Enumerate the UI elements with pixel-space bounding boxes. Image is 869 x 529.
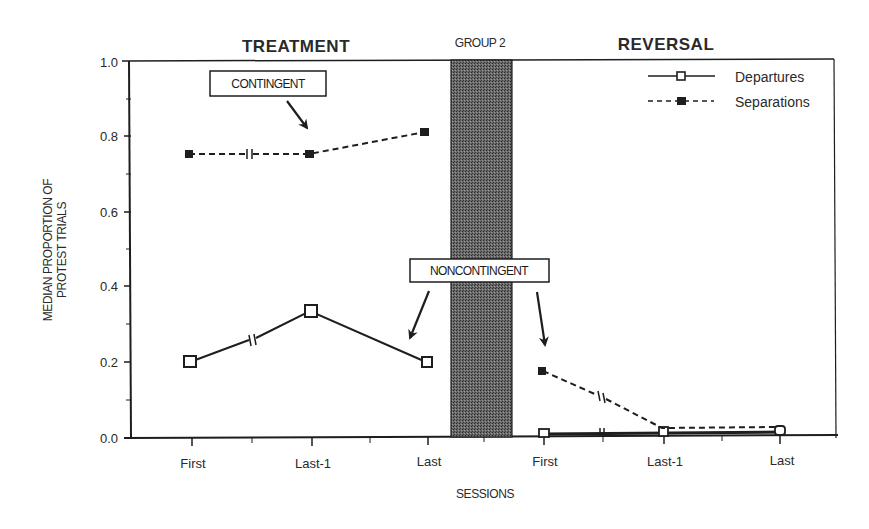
y-tick-label: 0.8	[100, 129, 118, 144]
svg-text:PROTEST TRIALS: PROTEST TRIALS	[55, 202, 69, 298]
data-point-departures	[775, 426, 785, 435]
x-tick-label: Last-1	[295, 456, 331, 471]
y-tick-label: 1.0	[100, 55, 118, 70]
y-tick-label: 0.4	[100, 279, 118, 294]
series-departures-treatment	[184, 305, 432, 367]
legend-item-departures: Departures	[648, 69, 804, 85]
x-tick-label: Last	[770, 453, 795, 468]
svg-text:CONTINGENT: CONTINGENT	[231, 77, 306, 91]
y-tick-label: 0.6	[100, 205, 118, 220]
data-point-departures	[422, 357, 432, 367]
y-tick-labels: 0.0 0.2 0.4 0.6 0.8 1.0	[100, 55, 118, 446]
series-separations-reversal	[538, 367, 778, 428]
arrow-icon	[287, 101, 307, 128]
svg-text:MEDIAN PROPORTION OF: MEDIAN PROPORTION OF	[41, 179, 55, 322]
open-square-marker-icon	[677, 72, 685, 80]
data-point-separations	[305, 150, 314, 158]
group-label: GROUP 2	[455, 36, 506, 50]
line-chart: TREATMENT GROUP 2 REVERSAL 0.0 0.2 0.4 0…	[0, 0, 869, 529]
group-2-shaded-bar	[451, 60, 512, 437]
svg-text:Departures: Departures	[735, 69, 804, 85]
x-tick-label: Last-1	[647, 454, 683, 469]
x-axis-label: SESSIONS	[456, 487, 515, 501]
data-point-separations	[420, 128, 429, 136]
svg-text:NONCONTINGENT: NONCONTINGENT	[430, 264, 529, 278]
phase-title-reversal: REVERSAL	[618, 35, 715, 54]
y-tick-label: 0.0	[100, 431, 118, 446]
x-tick-label: First	[532, 454, 558, 469]
svg-text:Separations: Separations	[735, 94, 810, 110]
annotation-contingent: CONTINGENT	[210, 71, 326, 128]
data-point-departures	[539, 429, 549, 437]
data-point-separations	[185, 150, 193, 158]
arrow-icon	[410, 291, 429, 338]
filled-square-marker-icon	[677, 97, 686, 105]
y-axis-label: MEDIAN PROPORTION OF PROTEST TRIALS	[41, 179, 69, 322]
arrow-icon	[537, 292, 545, 345]
x-tick-label: First	[180, 456, 206, 471]
series-separations-treatment	[185, 128, 429, 159]
legend: Departures Separations	[648, 69, 810, 110]
x-tick-label: Last	[417, 454, 442, 469]
legend-item-separations: Separations	[648, 94, 810, 110]
x-tick-labels: First Last-1 Last First Last-1 Last	[180, 453, 794, 471]
phase-title-treatment: TREATMENT	[242, 37, 350, 56]
y-tick-label: 0.2	[100, 355, 118, 370]
data-point-separations	[538, 367, 546, 375]
data-point-departures	[184, 356, 196, 367]
data-point-departures	[305, 305, 317, 317]
